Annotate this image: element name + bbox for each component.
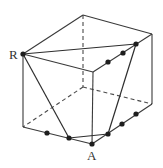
section-line-R-to-top-right bbox=[23, 44, 136, 54]
point-top-right-2 bbox=[120, 50, 125, 55]
point-bottom-left-1 bbox=[44, 130, 49, 135]
visible-edges bbox=[23, 15, 152, 144]
edge-vertical-front bbox=[92, 72, 93, 144]
label-R: R bbox=[9, 47, 18, 62]
edge-top-back-right bbox=[83, 15, 152, 34]
point-R bbox=[20, 51, 25, 56]
edge-top-back-left bbox=[23, 15, 83, 54]
point-top-right-1 bbox=[133, 41, 138, 46]
cube-section-diagram: R A bbox=[0, 0, 163, 168]
edge-bottom-left bbox=[23, 127, 92, 144]
edge-top-front-left bbox=[23, 54, 93, 72]
point-bottom-right-2 bbox=[119, 121, 124, 126]
hidden-edge-left bbox=[23, 87, 83, 127]
point-top-right-3 bbox=[105, 59, 110, 64]
point-bottom-left-2 bbox=[66, 135, 71, 140]
label-A: A bbox=[87, 148, 97, 163]
point-A bbox=[89, 141, 94, 146]
section-line-R-to-bottom bbox=[23, 54, 69, 138]
section-line-right bbox=[108, 44, 136, 134]
point-bottom-right-1 bbox=[105, 131, 110, 136]
point-bottom-right-3 bbox=[133, 111, 138, 116]
